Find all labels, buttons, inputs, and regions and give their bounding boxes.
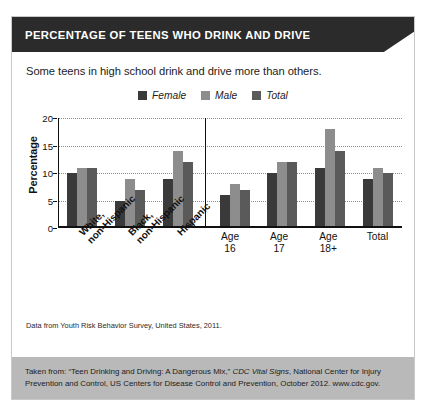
bar-female xyxy=(363,179,373,229)
bar-group xyxy=(258,118,306,228)
bar-total xyxy=(240,190,250,229)
bar-total xyxy=(335,151,345,228)
page-title: PERCENTAGE OF TEENS WHO DRINK AND DRIVE xyxy=(12,29,310,41)
bar-total xyxy=(383,173,393,228)
legend-label: Male xyxy=(215,90,237,101)
legend-item-female: Female xyxy=(138,90,186,101)
chart-area: Percentage 05101520 White,non-HispanicBl… xyxy=(12,112,414,272)
data-source-note: Data from Youth Risk Behavior Survey, Un… xyxy=(26,321,222,330)
legend-item-total: Total xyxy=(252,90,288,101)
y-axis-label: Percentage xyxy=(27,121,39,209)
bar-group xyxy=(306,118,354,228)
subtitle-text: Some teens in high school drink and driv… xyxy=(26,65,400,77)
y-tick-mark xyxy=(53,146,57,147)
bar-male xyxy=(325,129,335,228)
x-axis-labels: White,non-HispanicBlack,non-HispanicHisp… xyxy=(58,228,402,290)
y-axis-line xyxy=(58,118,59,228)
footer-attribution: Taken from: “Teen Drinking and Driving: … xyxy=(12,357,414,399)
footer-italic-title: CDC Vital Signs xyxy=(232,367,288,376)
bar-group xyxy=(211,118,259,228)
legend-swatch-icon xyxy=(201,91,210,100)
legend-swatch-icon xyxy=(138,91,147,100)
footer-part1: Taken from: “Teen Drinking and Driving: … xyxy=(25,367,232,376)
legend-label: Female xyxy=(152,90,186,101)
legend-swatch-icon xyxy=(252,91,261,100)
y-tick-mark xyxy=(53,118,57,119)
y-tick-mark xyxy=(53,228,57,229)
x-label: Age17 xyxy=(255,231,304,254)
legend-label: Total xyxy=(266,90,288,101)
y-tick-label: 0 xyxy=(48,223,53,234)
bar-female xyxy=(220,195,230,228)
y-tick-mark xyxy=(53,173,57,174)
y-tick-label: 5 xyxy=(48,195,53,206)
infographic-card: PERCENTAGE OF TEENS WHO DRINK AND DRIVE … xyxy=(11,16,415,400)
bar-male xyxy=(373,168,383,229)
y-tick-label: 10 xyxy=(42,168,53,179)
chart-legend: FemaleMaleTotal xyxy=(12,90,414,101)
x-label: Age16 xyxy=(205,231,254,254)
bar-female xyxy=(315,168,325,229)
bar-male xyxy=(230,184,240,228)
bar-female xyxy=(67,173,77,228)
x-label: Total xyxy=(353,231,402,243)
y-tick-mark xyxy=(53,201,57,202)
x-label: Age18+ xyxy=(304,231,353,254)
legend-item-male: Male xyxy=(201,90,237,101)
bar-female xyxy=(267,173,277,228)
bar-group xyxy=(354,118,402,228)
y-tick-label: 15 xyxy=(42,140,53,151)
header-banner: PERCENTAGE OF TEENS WHO DRINK AND DRIVE xyxy=(12,17,414,52)
bar-total xyxy=(287,162,297,228)
y-tick-label: 20 xyxy=(42,113,53,124)
bar-male xyxy=(77,168,87,229)
bar-male xyxy=(277,162,287,228)
